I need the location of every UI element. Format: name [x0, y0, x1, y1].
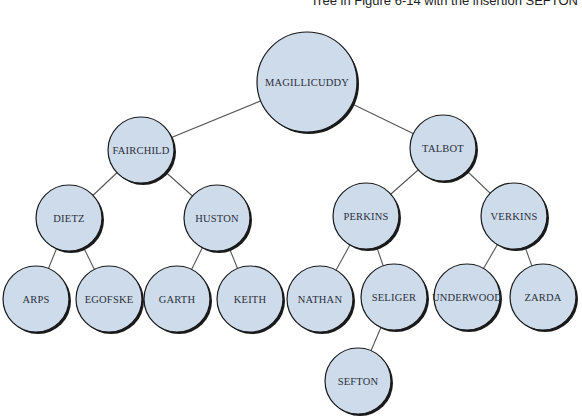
node-label: SEFTON	[338, 376, 379, 387]
node-sefton: SEFTON	[325, 348, 393, 416]
node-label: KEITH	[234, 294, 267, 305]
node-label: ARPS	[22, 294, 49, 305]
node-fairchild: FAIRCHILD	[108, 117, 176, 185]
node-underwood: UNDERWOOD	[432, 264, 502, 332]
node-label: NATHAN	[298, 294, 343, 305]
node-magillicuddy: MAGILLICUDDY	[257, 32, 359, 134]
node-nathan: NATHAN	[287, 266, 355, 334]
binary-search-tree: MAGILLICUDDYFAIRCHILDTALBOTDIETZHUSTONPE…	[0, 0, 582, 417]
node-seliger: SELIGER	[361, 264, 429, 332]
node-label: VERKINS	[491, 211, 538, 222]
node-huston: HUSTON	[184, 185, 252, 253]
node-label: FAIRCHILD	[112, 145, 169, 156]
tree-nodes: MAGILLICUDDYFAIRCHILDTALBOTDIETZHUSTONPE…	[3, 32, 578, 416]
node-label: DIETZ	[53, 213, 84, 224]
node-label: SELIGER	[372, 292, 417, 303]
node-label: GARTH	[159, 294, 196, 305]
node-talbot: TALBOT	[410, 115, 478, 183]
node-label: PERKINS	[343, 211, 388, 222]
node-keith: KEITH	[217, 266, 285, 334]
node-label: HUSTON	[195, 213, 239, 224]
node-label: TALBOT	[422, 143, 464, 154]
node-verkins: VERKINS	[481, 183, 549, 251]
node-egofske: EGOFSKE	[76, 266, 144, 334]
node-garth: GARTH	[144, 266, 212, 334]
node-arps: ARPS	[3, 266, 71, 334]
node-zarda: ZARDA	[510, 264, 578, 332]
node-perkins: PERKINS	[333, 183, 401, 251]
node-label: EGOFSKE	[85, 294, 134, 305]
node-label: ZARDA	[524, 292, 561, 303]
node-label: MAGILLICUDDY	[265, 77, 349, 88]
node-label: UNDERWOOD	[432, 292, 502, 303]
